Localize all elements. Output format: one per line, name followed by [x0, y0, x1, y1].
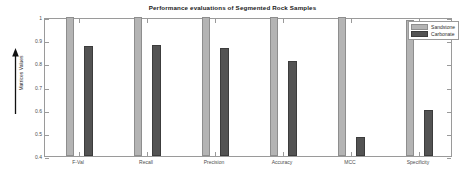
y-tick-mark	[45, 19, 49, 20]
y-tick-mark	[447, 112, 451, 113]
x-tick-mark	[215, 152, 216, 156]
bar-recall-carbonate	[152, 45, 161, 156]
x-tick-mark	[79, 152, 80, 156]
bar-mcc-carbonate	[356, 137, 365, 156]
x-tick-mark	[147, 152, 148, 156]
x-tick-mark	[419, 152, 420, 156]
x-tick-mark	[351, 152, 352, 156]
legend-swatch-carbonate	[411, 31, 428, 37]
bar-f-val-carbonate	[84, 46, 93, 156]
bar-recall-sandstone	[134, 17, 143, 156]
y-tick-mark	[45, 42, 49, 43]
y-tick-mark	[45, 135, 49, 136]
chart-title: Performance evaluations of Segmented Roc…	[0, 4, 465, 11]
bar-mcc-sandstone	[338, 17, 347, 156]
x-tick-label-accuracy: Accuracy	[272, 159, 293, 165]
x-tick-mark	[283, 152, 284, 156]
legend-label-sandstone: Sandstone	[431, 24, 455, 30]
y-tick-mark	[447, 42, 451, 43]
legend-item-sandstone[interactable]: Sandstone	[411, 24, 455, 30]
bar-specificity-sandstone	[406, 20, 415, 156]
x-axis-tick-labels: F-ValRecallPrecisionAccuracyMCCSpecifici…	[44, 159, 452, 173]
x-tick-label-mcc: MCC	[344, 159, 355, 165]
y-tick-mark	[45, 89, 49, 90]
bar-accuracy-carbonate	[288, 61, 297, 156]
y-tick-label-0-7: 0.7	[35, 85, 42, 91]
legend-label-carbonate: Carbonate	[431, 31, 454, 37]
x-tick-label-f-val: F-Val	[72, 159, 84, 165]
legend-swatch-sandstone	[411, 24, 428, 30]
bar-accuracy-sandstone	[270, 17, 279, 156]
x-tick-mark	[147, 19, 148, 23]
y-tick-label-0-8: 0.8	[35, 61, 42, 67]
y-tick-label-0-4: 0.4	[35, 154, 42, 160]
bar-precision-carbonate	[220, 48, 229, 156]
bar-precision-sandstone	[202, 17, 211, 156]
x-tick-mark	[79, 19, 80, 23]
y-tick-mark	[447, 135, 451, 136]
y-tick-label-0-5: 0.5	[35, 131, 42, 137]
x-tick-label-recall: Recall	[139, 159, 153, 165]
x-tick-mark	[283, 19, 284, 23]
bar-f-val-sandstone	[66, 17, 75, 156]
y-tick-label-0-9: 0.9	[35, 38, 42, 44]
plot-area	[44, 18, 452, 157]
y-tick-mark	[447, 65, 451, 66]
legend-item-carbonate[interactable]: Carbonate	[411, 31, 455, 37]
bar-specificity-carbonate	[424, 110, 433, 156]
x-tick-mark	[215, 19, 216, 23]
y-axis-tick-labels: 0.40.50.60.70.80.91	[24, 18, 42, 157]
x-tick-mark	[351, 19, 352, 23]
y-tick-mark	[447, 89, 451, 90]
chart-figure: Performance evaluations of Segmented Roc…	[0, 0, 465, 176]
y-tick-label-0-6: 0.6	[35, 108, 42, 114]
y-tick-mark	[45, 65, 49, 66]
y-tick-label-1: 1	[39, 15, 42, 21]
x-tick-label-specificity: Specificity	[407, 159, 430, 165]
y-tick-mark	[45, 112, 49, 113]
x-tick-label-precision: Precision	[204, 159, 225, 165]
chart-legend[interactable]: SandstoneCarbonate	[408, 21, 459, 40]
y-axis-label-group: Matrices Values	[10, 44, 24, 134]
y-tick-mark	[447, 19, 451, 20]
